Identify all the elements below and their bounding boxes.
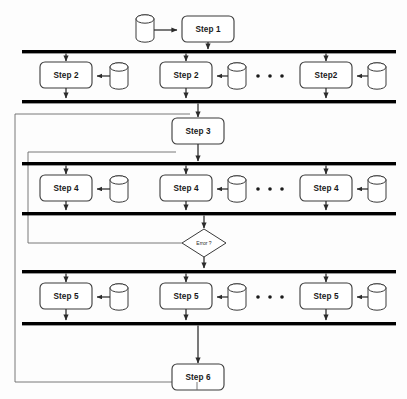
node-step2-a-label: Step 2 [53, 71, 79, 80]
node-step5-a[interactable]: Step 5 [40, 283, 92, 309]
node-step5-a-label: Step 5 [53, 292, 79, 301]
node-step6-label: Step 6 [185, 373, 211, 382]
datastore-step4-b-icon [228, 176, 246, 202]
node-step2-c-label: Step2 [315, 71, 338, 80]
node-step5-b[interactable]: Step 5 [160, 283, 212, 309]
datastore-step5-a-icon [110, 284, 128, 310]
sync-bar-fork-step4 [22, 162, 396, 165]
ellipsis-row-step2 [256, 74, 284, 78]
datastore-step2-a-icon [110, 63, 128, 89]
ellipsis-row-step4 [256, 187, 284, 191]
node-step1[interactable]: Step 1 [182, 16, 234, 42]
node-decision-error-label: Error ? [196, 240, 212, 246]
node-step2-b-label: Step 2 [173, 71, 199, 80]
flowchart-svg: Step 1 Step 2 Step 2 [0, 0, 407, 399]
node-step6[interactable]: Step 6 [172, 364, 224, 390]
datastore-step4-a-icon [110, 176, 128, 202]
ellipsis-row-step5 [256, 295, 284, 299]
diagram-canvas: Step 1 Step 2 Step 2 [0, 0, 407, 399]
outer-loop-path [15, 114, 197, 382]
node-step4-c-label: Step 4 [313, 184, 339, 193]
node-step5-c[interactable]: Step 5 [300, 283, 352, 309]
node-step2-c[interactable]: Step2 [300, 62, 352, 88]
node-decision-error[interactable]: Error ? [182, 229, 226, 257]
datastore-step2-c-icon [368, 63, 386, 89]
node-step5-c-label: Step 5 [313, 292, 339, 301]
node-step4-a-label: Step 4 [53, 184, 79, 193]
node-step4-a[interactable]: Step 4 [40, 175, 92, 201]
node-step2-a[interactable]: Step 2 [40, 62, 92, 88]
node-step4-c[interactable]: Step 4 [300, 175, 352, 201]
node-step2-b[interactable]: Step 2 [160, 62, 212, 88]
sync-bar-fork-step5 [22, 270, 396, 273]
datastore-step4-c-icon [368, 176, 386, 202]
datastore-step5-b-icon [228, 284, 246, 310]
datastore-step2-b-icon [228, 63, 246, 89]
sync-bar-join-step4 [22, 212, 396, 215]
node-step4-b-label: Step 4 [173, 184, 199, 193]
node-step1-label: Step 1 [195, 25, 221, 34]
node-step3-label: Step 3 [185, 127, 211, 136]
datastore-source-icon [136, 15, 154, 42]
sync-bar-join-step5 [22, 322, 396, 325]
sync-bar-join-step2 [22, 100, 396, 103]
node-step3[interactable]: Step 3 [172, 118, 224, 144]
sync-bar-fork-step2 [22, 50, 396, 53]
datastore-step5-c-icon [368, 284, 386, 310]
node-step5-b-label: Step 5 [173, 292, 199, 301]
node-step4-b[interactable]: Step 4 [160, 175, 212, 201]
